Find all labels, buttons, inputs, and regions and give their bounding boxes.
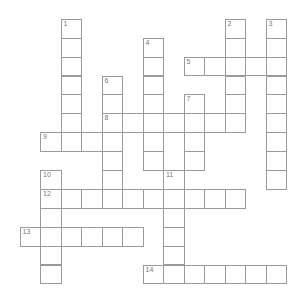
crossword-cell[interactable]: 4: [143, 38, 165, 58]
crossword-cell[interactable]: [225, 113, 247, 133]
crossword-cell[interactable]: 7: [184, 94, 206, 114]
crossword-cell[interactable]: [102, 94, 124, 114]
crossword-cell[interactable]: [40, 208, 62, 228]
crossword-cell[interactable]: [184, 113, 206, 133]
crossword-cell[interactable]: [225, 265, 247, 285]
crossword-cell[interactable]: [61, 57, 83, 77]
crossword-cell[interactable]: [204, 265, 226, 285]
crossword-cell[interactable]: [225, 94, 247, 114]
crossword-cell[interactable]: 6: [102, 76, 124, 96]
crossword-cell[interactable]: [40, 227, 62, 247]
crossword-cell[interactable]: [163, 189, 185, 209]
crossword-cell[interactable]: 11: [163, 170, 185, 190]
crossword-cell[interactable]: [184, 151, 206, 171]
crossword-cell[interactable]: [163, 246, 185, 266]
crossword-cell[interactable]: [81, 189, 103, 209]
crossword-cell[interactable]: 12: [40, 189, 62, 209]
crossword-cell[interactable]: 3: [266, 19, 288, 39]
clue-number: 11: [166, 171, 173, 179]
crossword-cell[interactable]: [163, 227, 185, 247]
crossword-cell[interactable]: 10: [40, 170, 62, 190]
crossword-cell[interactable]: [61, 113, 83, 133]
crossword-cell[interactable]: [61, 38, 83, 58]
clue-number: 7: [187, 95, 191, 103]
crossword-cell[interactable]: [102, 227, 124, 247]
crossword-cell[interactable]: [225, 189, 247, 209]
crossword-cell[interactable]: [81, 132, 103, 152]
clue-number: 4: [146, 39, 150, 47]
crossword-cell[interactable]: [266, 151, 288, 171]
crossword-cell[interactable]: [163, 265, 185, 285]
crossword-cell[interactable]: [266, 38, 288, 58]
crossword-cell[interactable]: 14: [143, 265, 165, 285]
crossword-cell[interactable]: [40, 246, 62, 266]
crossword-cell[interactable]: [102, 189, 124, 209]
crossword-cell[interactable]: [143, 76, 165, 96]
crossword-cell[interactable]: [184, 189, 206, 209]
crossword-cell[interactable]: [245, 265, 267, 285]
clue-number: 13: [23, 228, 31, 236]
crossword-cell[interactable]: [102, 132, 124, 152]
crossword-cell[interactable]: [102, 151, 124, 171]
crossword-cell[interactable]: [184, 265, 206, 285]
crossword-cell[interactable]: [122, 113, 144, 133]
crossword-cell[interactable]: [225, 76, 247, 96]
crossword-cell[interactable]: [61, 189, 83, 209]
crossword-cell[interactable]: [81, 227, 103, 247]
clue-number: 5: [187, 58, 191, 66]
clue-number: 14: [146, 266, 154, 274]
crossword-cell[interactable]: [266, 170, 288, 190]
crossword-cell[interactable]: [40, 265, 62, 285]
clue-number: 8: [105, 114, 109, 122]
clue-number: 3: [269, 20, 273, 28]
crossword-cell[interactable]: [204, 189, 226, 209]
crossword-cell[interactable]: [102, 170, 124, 190]
crossword-grid: 1234568791012111314: [0, 0, 300, 301]
crossword-cell[interactable]: [163, 208, 185, 228]
crossword-cell[interactable]: [143, 113, 165, 133]
crossword-cell[interactable]: [266, 94, 288, 114]
crossword-cell[interactable]: [266, 76, 288, 96]
crossword-cell[interactable]: [61, 94, 83, 114]
crossword-cell[interactable]: 2: [225, 19, 247, 39]
crossword-cell[interactable]: 5: [184, 57, 206, 77]
crossword-cell[interactable]: [266, 265, 288, 285]
crossword-cell[interactable]: [61, 227, 83, 247]
crossword-cell[interactable]: [143, 57, 165, 77]
crossword-cell[interactable]: [245, 57, 267, 77]
crossword-cell[interactable]: 8: [102, 113, 124, 133]
crossword-cell[interactable]: [266, 113, 288, 133]
crossword-cell[interactable]: 9: [40, 132, 62, 152]
crossword-cell[interactable]: 1: [61, 19, 83, 39]
crossword-cell[interactable]: [225, 38, 247, 58]
crossword-cell[interactable]: 13: [20, 227, 42, 247]
crossword-cell[interactable]: [122, 227, 144, 247]
crossword-cell[interactable]: [143, 94, 165, 114]
crossword-cell[interactable]: [163, 113, 185, 133]
clue-number: 6: [105, 77, 109, 85]
crossword-cell[interactable]: [143, 189, 165, 209]
clue-number: 12: [43, 190, 51, 198]
crossword-cell[interactable]: [225, 57, 247, 77]
crossword-cell[interactable]: [266, 57, 288, 77]
crossword-cell[interactable]: [204, 57, 226, 77]
crossword-cell[interactable]: [184, 132, 206, 152]
clue-number: 10: [43, 171, 51, 179]
clue-number: 1: [64, 20, 68, 28]
crossword-cell[interactable]: [122, 189, 144, 209]
crossword-cell[interactable]: [61, 132, 83, 152]
crossword-cell[interactable]: [204, 113, 226, 133]
crossword-cell[interactable]: [143, 151, 165, 171]
crossword-cell[interactable]: [61, 76, 83, 96]
crossword-cell[interactable]: [143, 132, 165, 152]
clue-number: 9: [43, 133, 47, 141]
clue-number: 2: [228, 20, 232, 28]
crossword-cell[interactable]: [266, 132, 288, 152]
